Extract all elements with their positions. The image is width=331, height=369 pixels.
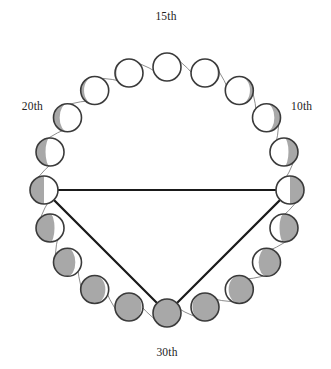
moon-disk: [30, 176, 58, 204]
label-20th: 20th: [22, 100, 43, 112]
moon-disk: [115, 59, 143, 87]
moon-disk: [191, 293, 219, 321]
moon-disk: [36, 214, 64, 242]
moon-disk: [270, 138, 298, 166]
moon-disk: [36, 138, 64, 166]
moon-disk: [153, 53, 181, 81]
moon-disk: [153, 299, 181, 327]
moon-phase-diagram: 15th10th20th30th: [0, 0, 331, 369]
label-15th: 15th: [155, 10, 176, 22]
label-30th: 30th: [156, 346, 177, 358]
label-10th: 10th: [291, 100, 312, 112]
moon-disk: [225, 276, 253, 304]
moon-disk: [253, 248, 281, 276]
moon-disk: [276, 176, 304, 204]
moon-disk: [53, 248, 81, 276]
moon-disk: [81, 276, 109, 304]
moon-disk: [270, 214, 298, 242]
moon-disk: [191, 59, 219, 87]
moon-disk: [81, 76, 109, 104]
moon-disk: [115, 293, 143, 321]
moon-disk: [53, 104, 81, 132]
moon-cycle-figure: 15th10th20th30th: [0, 0, 331, 369]
moon-disk: [253, 104, 281, 132]
moon-disk: [225, 76, 253, 104]
